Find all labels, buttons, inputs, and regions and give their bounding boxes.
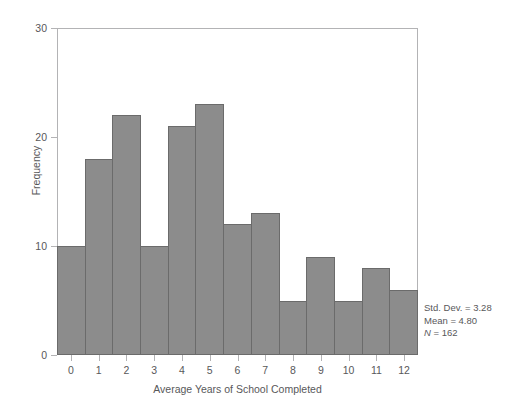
x-tick-label-12: 12: [389, 364, 419, 376]
bar-9[interactable]: [306, 257, 335, 355]
x-tick-mark-10: [349, 355, 350, 361]
bar-6[interactable]: [223, 224, 252, 355]
n-symbol: N: [424, 327, 431, 338]
x-tick-label-8: 8: [278, 364, 308, 376]
x-tick-label-3: 3: [139, 364, 169, 376]
x-tick-label-9: 9: [306, 364, 336, 376]
bar-10[interactable]: [334, 301, 363, 356]
bar-1[interactable]: [85, 159, 114, 355]
n-value: = 162: [431, 327, 458, 338]
x-tick-mark-7: [265, 355, 266, 361]
x-axis-title: Average Years of School Completed: [57, 383, 418, 395]
bar-series: [57, 28, 418, 355]
x-tick-label-6: 6: [223, 364, 253, 376]
x-tick-mark-11: [376, 355, 377, 361]
bar-3[interactable]: [140, 246, 169, 355]
x-tick-label-5: 5: [195, 364, 225, 376]
sample-size-text: N = 162: [424, 327, 492, 340]
x-tick-label-2: 2: [111, 364, 141, 376]
x-tick-mark-2: [126, 355, 127, 361]
bar-2[interactable]: [112, 115, 141, 355]
bar-5[interactable]: [195, 104, 224, 355]
y-tick-label-0: 0: [0, 350, 47, 361]
y-tick-mark-10: [51, 246, 57, 247]
x-tick-label-4: 4: [167, 364, 197, 376]
y-axis-title: Frequency: [31, 111, 42, 231]
x-tick-label-7: 7: [250, 364, 280, 376]
x-tick-mark-4: [182, 355, 183, 361]
x-tick-mark-5: [210, 355, 211, 361]
x-tick-label-10: 10: [334, 364, 364, 376]
bar-0[interactable]: [57, 246, 86, 355]
x-tick-mark-6: [238, 355, 239, 361]
x-tick-mark-9: [321, 355, 322, 361]
y-tick-label-30: 30: [0, 23, 47, 34]
bar-12[interactable]: [389, 290, 418, 355]
x-tick-mark-8: [293, 355, 294, 361]
y-tick-mark-0: [51, 355, 57, 356]
mean-text: Mean = 4.80: [424, 315, 492, 328]
bar-11[interactable]: [362, 268, 391, 355]
bar-8[interactable]: [279, 301, 308, 356]
x-tick-label-11: 11: [361, 364, 391, 376]
x-tick-label-1: 1: [84, 364, 114, 376]
y-tick-mark-20: [51, 137, 57, 138]
histogram-figure: 0102030 Frequency 0123456789101112 Avera…: [0, 0, 516, 414]
x-tick-mark-1: [99, 355, 100, 361]
stats-annotation: Std. Dev. = 3.28 Mean = 4.80 N = 162: [424, 302, 492, 340]
x-tick-mark-0: [71, 355, 72, 361]
bar-7[interactable]: [251, 213, 280, 355]
x-tick-label-0: 0: [56, 364, 86, 376]
std-dev-text: Std. Dev. = 3.28: [424, 302, 492, 315]
y-tick-label-10: 10: [0, 241, 47, 252]
y-tick-mark-30: [51, 28, 57, 29]
bar-4[interactable]: [168, 126, 197, 355]
x-tick-mark-12: [404, 355, 405, 361]
x-tick-mark-3: [154, 355, 155, 361]
